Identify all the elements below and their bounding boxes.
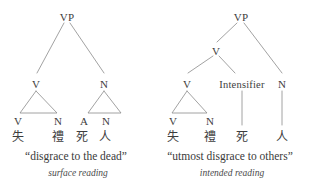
han-ren-1: 人 [99, 131, 111, 143]
node-v-left: V [32, 79, 40, 90]
caption-intended-reading: intended reading [200, 168, 264, 178]
edge-midv-intensifier [219, 56, 235, 73]
edge-midv-v [188, 56, 213, 73]
han-si-1: 死 [76, 131, 88, 143]
node-vp: VP [234, 12, 248, 23]
node-n-right: N [100, 79, 108, 90]
edge-vp-n [244, 23, 282, 73]
node-n-right: N [278, 79, 286, 90]
leaf-label-a-1: A [80, 116, 88, 127]
syntax-tree-figure: VP V N V N A N 失 禮 死 人 “disgrace to the … [0, 0, 309, 190]
han-li-2: 禮 [204, 131, 216, 143]
node-v-mid: V [212, 46, 220, 57]
gloss-surface: “disgrace to the dead” [25, 150, 127, 162]
edge-vp-v [37, 23, 64, 73]
intended-reading-tree: VP V V Intensifier N V N 失 禮 死 人 “utmost… [155, 0, 309, 190]
triangle-right [88, 91, 121, 113]
caption-surface-reading: surface reading [48, 168, 108, 178]
node-v-left: V [183, 79, 191, 90]
surface-reading-tree: VP V N V N A N 失 禮 死 人 “disgrace to the … [0, 0, 155, 190]
leaf-label-n-1: N [206, 116, 214, 127]
edge-vp-n [70, 23, 104, 73]
triangle-left [20, 91, 57, 113]
leaf-label-n-2: N [102, 116, 110, 127]
leaf-label-v-1: V [169, 116, 177, 127]
han-si-2: 死 [236, 131, 248, 143]
leaf-label-v-1: V [14, 116, 22, 127]
han-ren-2: 人 [276, 131, 288, 143]
gloss-intended: “utmost disgrace to others” [167, 150, 293, 162]
han-li-1: 禮 [52, 131, 64, 143]
han-shi-1: 失 [12, 131, 24, 143]
leaf-label-n-1: N [54, 116, 62, 127]
node-intensifier: Intensifier [219, 79, 264, 90]
han-shi-2: 失 [167, 131, 179, 143]
edge-vp-midv [217, 23, 237, 42]
node-vp: VP [60, 12, 74, 23]
triangle-left [172, 91, 207, 113]
